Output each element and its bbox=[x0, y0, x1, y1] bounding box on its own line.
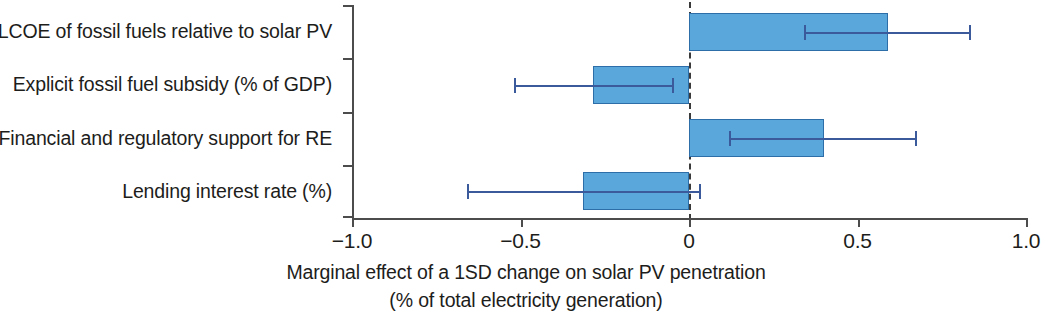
value-tick-3 bbox=[858, 218, 860, 227]
category-label-financial-support: Financial and regulatory support for RE bbox=[0, 112, 332, 165]
error-bar-cap-high-financial-support bbox=[915, 131, 917, 146]
value-tick-1 bbox=[521, 218, 523, 227]
error-bar-cap-high-subsidy bbox=[672, 78, 674, 93]
category-axis-labels: LCOE of fossil fuels relative to solar P… bbox=[0, 5, 344, 218]
category-axis-spine bbox=[352, 5, 354, 218]
error-bar-cap-high-lcoe bbox=[969, 25, 971, 40]
category-label-subsidy: Explicit fossil fuel subsidy (% of GDP) bbox=[13, 58, 332, 111]
value-tick-label-3: 0.5 bbox=[843, 229, 871, 253]
x-axis-title-line-2: (% of total electricity generation) bbox=[0, 286, 1052, 314]
error-bar-cap-low-lending-rate bbox=[467, 184, 469, 199]
x-axis-title: Marginal effect of a 1SD change on solar… bbox=[0, 258, 1052, 314]
value-tick-label-1: −0.5 bbox=[500, 229, 540, 253]
value-tick-label-4: 1.0 bbox=[1012, 229, 1040, 253]
category-tick-1 bbox=[343, 58, 352, 60]
category-label-lcoe: LCOE of fossil fuels relative to solar P… bbox=[0, 5, 332, 58]
error-bar-cap-low-subsidy bbox=[514, 78, 516, 93]
error-bar-line-financial-support bbox=[729, 138, 914, 140]
value-tick-4 bbox=[1026, 218, 1028, 227]
bar-chart-figure: LCOE of fossil fuels relative to solar P… bbox=[0, 0, 1052, 319]
category-tick-3 bbox=[343, 165, 352, 167]
plot-area: −1.0 −0.5 0 0.5 1.0 bbox=[352, 5, 1026, 218]
category-label-lending-rate: Lending interest rate (%) bbox=[122, 165, 332, 218]
error-bar-cap-low-financial-support bbox=[729, 131, 731, 146]
category-tick-0 bbox=[343, 5, 352, 7]
value-tick-0 bbox=[352, 218, 354, 227]
error-bar-line-lending-rate bbox=[467, 191, 700, 193]
x-axis-title-line-1: Marginal effect of a 1SD change on solar… bbox=[286, 261, 765, 283]
error-bar-cap-low-lcoe bbox=[804, 25, 806, 40]
error-bar-line-lcoe bbox=[804, 32, 969, 34]
category-tick-2 bbox=[343, 112, 352, 114]
error-bar-cap-high-lending-rate bbox=[699, 184, 701, 199]
value-tick-2 bbox=[689, 218, 691, 227]
value-tick-label-0: −1.0 bbox=[332, 229, 372, 253]
value-tick-label-2: 0 bbox=[683, 229, 694, 253]
error-bar-line-subsidy bbox=[514, 85, 672, 87]
category-tick-4 bbox=[343, 216, 352, 218]
